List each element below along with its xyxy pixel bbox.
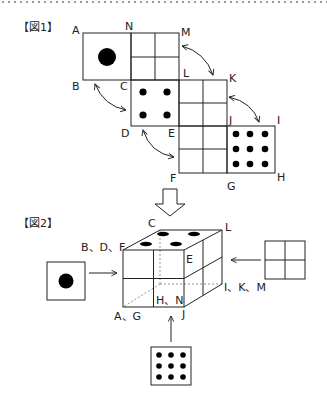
label-H-N: H、N — [156, 294, 184, 307]
dot-icon — [98, 48, 116, 66]
label-E: E — [168, 127, 175, 140]
label-J: J — [228, 114, 232, 127]
label-A: A — [72, 24, 80, 37]
label-B: B — [72, 80, 80, 93]
label-B-D-F: B、D、F — [81, 241, 125, 254]
label-M: M — [181, 26, 191, 39]
curved-arrow-icon — [229, 97, 259, 122]
view-box-right — [265, 241, 305, 279]
down-arrow-icon — [155, 189, 185, 216]
label-H: H — [277, 171, 285, 184]
label-L: L — [225, 221, 232, 234]
dot-icon — [59, 274, 74, 289]
label-I: I — [277, 114, 280, 127]
face-four-dots — [131, 80, 179, 126]
label-C: C — [148, 217, 156, 230]
label-N: N — [125, 20, 133, 33]
label-D: D — [121, 127, 129, 140]
cube-top-dots — [140, 232, 200, 246]
cube-net-diagram: 【図1】 A N M B — [0, 0, 327, 411]
label-F: F — [170, 172, 176, 185]
label-L: L — [183, 67, 190, 80]
label-K: K — [229, 72, 237, 85]
label-J: J — [181, 308, 185, 321]
bottom-view-dots — [156, 352, 186, 380]
figure1-title: 【図1】 — [18, 21, 58, 34]
label-A-G: A、G — [114, 310, 141, 323]
label-C: C — [120, 80, 128, 93]
cube-top-face — [123, 230, 222, 250]
label-I-K-M: I、K、M — [224, 281, 266, 294]
label-G: G — [227, 180, 236, 193]
label-E: E — [186, 253, 193, 266]
figure2-title: 【図2】 — [18, 217, 58, 230]
edge-pair-arrows — [95, 46, 259, 157]
